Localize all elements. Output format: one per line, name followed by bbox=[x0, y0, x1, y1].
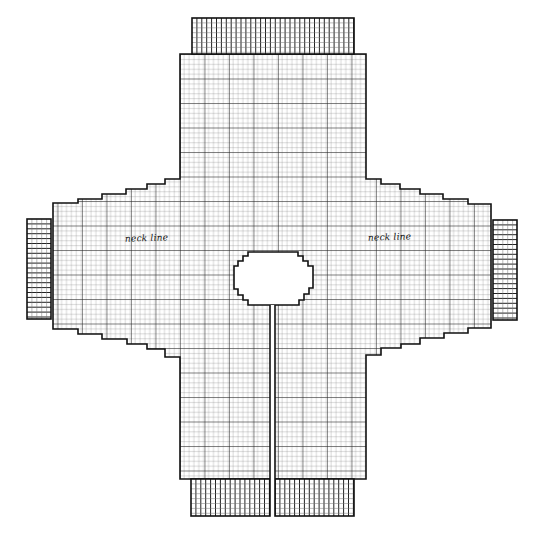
left-cuff bbox=[27, 219, 51, 319]
center-front-slit bbox=[270, 305, 275, 516]
bottom-ribbing-right bbox=[275, 479, 354, 516]
pattern-diagram: neck line neck line bbox=[0, 0, 541, 535]
neck-opening bbox=[234, 252, 313, 305]
right-cuff bbox=[493, 220, 517, 320]
top-ribbing bbox=[192, 18, 354, 54]
pattern-svg bbox=[0, 0, 541, 535]
bottom-ribbing-left bbox=[191, 479, 270, 516]
right-neck-line-label: neck line bbox=[368, 231, 411, 243]
left-neck-line-label: neck line bbox=[125, 232, 168, 244]
